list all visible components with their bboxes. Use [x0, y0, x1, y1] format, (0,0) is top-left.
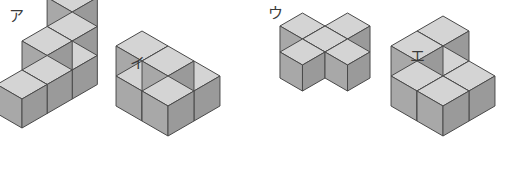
figure-label-e: エ: [410, 49, 425, 64]
cube-figures-canvas: [0, 0, 515, 184]
figure-label-i: イ: [130, 56, 145, 71]
figure-label-a: ア: [9, 9, 24, 24]
figure-label-u: ウ: [268, 6, 283, 21]
